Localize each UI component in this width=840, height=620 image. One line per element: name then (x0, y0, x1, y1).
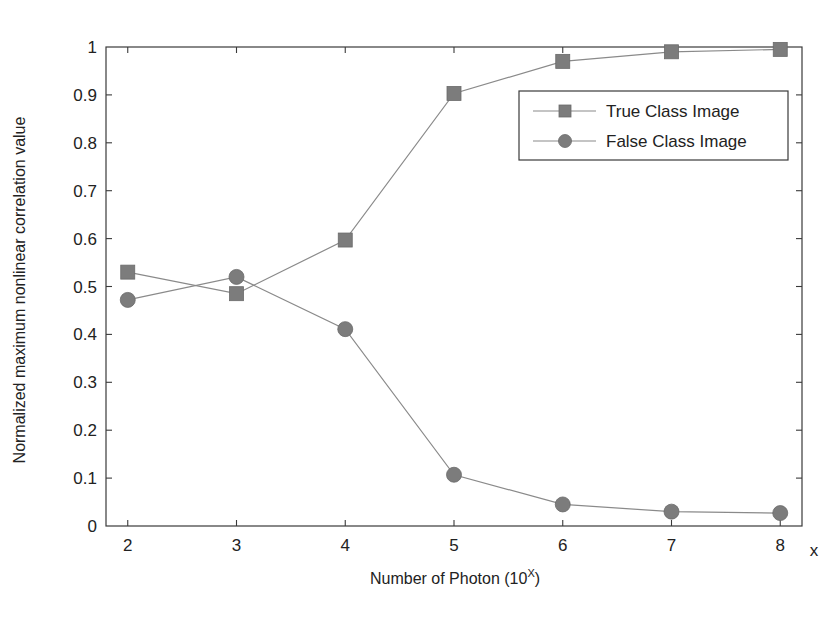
x-tick-label: 7 (667, 536, 676, 555)
data-point-circle (229, 269, 244, 284)
x-tick-label: 2 (123, 536, 132, 555)
series-line-0 (128, 49, 781, 293)
data-point-circle (555, 497, 570, 512)
x-tick-label: 8 (776, 536, 785, 555)
data-point-circle (664, 504, 679, 519)
y-tick-label: 0.2 (73, 421, 97, 440)
legend-label-true-class: True Class Image (606, 102, 740, 121)
data-point-circle (773, 506, 788, 521)
y-tick-label: 0.4 (73, 325, 97, 344)
data-point-circle (338, 322, 353, 337)
data-point-circle (447, 467, 462, 482)
y-axis-title-group: Normalized maximum nonlinear correlation… (11, 116, 28, 463)
x-tick-label: 6 (558, 536, 567, 555)
data-point-square (121, 265, 135, 279)
y-tick-label: 0.1 (73, 469, 97, 488)
x-tick-label: 4 (341, 536, 350, 555)
y-tick-label: 0 (88, 517, 97, 536)
y-tick-label: 1 (88, 38, 97, 57)
legend-label-false-class: False Class Image (606, 132, 747, 151)
legend-square-marker-icon (559, 105, 571, 117)
y-axis-title: Normalized maximum nonlinear correlation… (11, 116, 28, 463)
data-point-circle (120, 292, 135, 307)
legend: True Class Image False Class Image (519, 91, 788, 160)
y-tick-label: 0.3 (73, 373, 97, 392)
data-point-square (230, 287, 244, 301)
data-point-square (556, 54, 570, 68)
y-tick-label: 0.9 (73, 86, 97, 105)
y-tick-label: 0.7 (73, 182, 97, 201)
data-point-square (773, 42, 787, 56)
legend-circle-marker-icon (559, 135, 572, 148)
x-axis-title-close: ) (535, 570, 540, 587)
data-point-square (447, 86, 461, 100)
y-tick-label: 0.8 (73, 134, 97, 153)
x-axis-title: Number of Photon (10X) (370, 567, 540, 587)
y-tick-label: 0.6 (73, 230, 97, 249)
x-axis-title-main: Number of Photon (10 (370, 570, 528, 587)
data-point-square (665, 45, 679, 59)
x-tick-label: 3 (232, 536, 241, 555)
x-tick-label: 5 (449, 536, 458, 555)
y-tick-label: 0.5 (73, 278, 97, 297)
x-axis-exponent-label: x (810, 541, 819, 560)
line-chart: Normalized maximum nonlinear correlation… (0, 0, 840, 620)
data-point-square (338, 233, 352, 247)
